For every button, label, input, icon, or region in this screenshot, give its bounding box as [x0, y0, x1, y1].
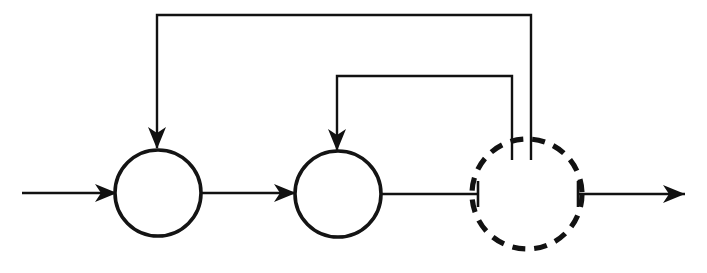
- diagram-canvas: [0, 0, 707, 273]
- summing-junction-1[interactable]: [115, 150, 201, 236]
- block-diagram-figure: [0, 0, 707, 273]
- summing-junction-2[interactable]: [295, 151, 381, 237]
